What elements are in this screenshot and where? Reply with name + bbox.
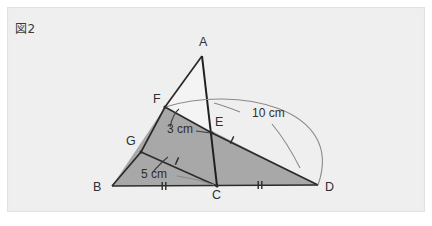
vertex-label-a: A [199,35,208,49]
vertex-label-g: G [126,134,136,148]
dimension-label-5cm: 5 cm [141,167,167,181]
screenshot-root: 図2 A F E G B C D [0,0,432,226]
vertex-label-c: C [212,188,221,202]
vertex-label-f: F [153,92,161,106]
vertex-label-d: D [325,180,334,194]
dimension-label-3cm: 3 cm [167,122,193,136]
leader-line-10cm [214,103,240,112]
vertex-dot-g [139,150,142,153]
leader-tail-10cm [272,124,300,168]
geometry-figure: A F E G B C D 3 cm 5 cm 10 cm [0,0,432,226]
vertex-dot-f [163,105,166,108]
vertex-label-b: B [93,180,101,194]
vertex-dot-e [210,131,213,134]
dimension-label-10cm: 10 cm [252,106,285,120]
vertex-label-e: E [215,115,223,129]
